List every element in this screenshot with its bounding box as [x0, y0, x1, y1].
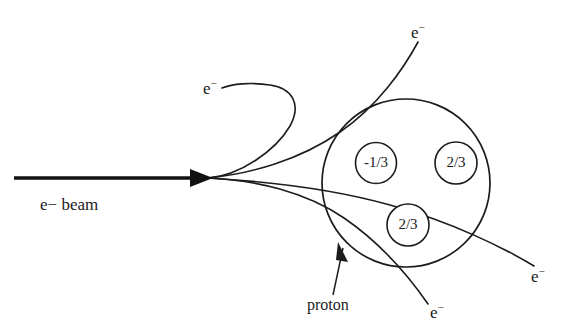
beam-charge-sign: −	[48, 195, 58, 214]
beam-word: beam	[57, 195, 98, 214]
electron-charge-sign: −	[539, 265, 545, 277]
label-electron-beam: e− beam	[40, 196, 98, 213]
beam-electron-symbol: e	[40, 195, 48, 214]
electron-charge-sign: −	[419, 21, 425, 33]
label-electron-forward-up: e−	[411, 22, 425, 41]
label-electron-backscatter: e−	[203, 78, 217, 97]
label-electron-forward-right: e−	[531, 266, 545, 285]
electron-symbol: e	[531, 267, 539, 286]
electron-track-forward-right	[208, 178, 534, 266]
label-electron-forward-down: e−	[430, 302, 444, 321]
beam-arrow-head	[190, 169, 213, 187]
quark-label-up-bottom: 2/3	[398, 216, 417, 232]
quark-label-up-right: 2/3	[446, 154, 465, 170]
electron-charge-sign: −	[211, 77, 217, 89]
quark-label-down: -1/3	[364, 154, 388, 170]
electron-symbol: e	[411, 23, 419, 42]
electron-symbol: e	[430, 303, 438, 322]
label-proton: proton	[307, 297, 349, 313]
electron-track-backscatter	[208, 84, 295, 178]
diagram-canvas: -1/3 2/3 2/3	[0, 0, 565, 332]
electron-charge-sign: −	[438, 301, 444, 313]
proton-pointer-head	[336, 242, 348, 262]
scattering-diagram: -1/3 2/3 2/3 e− e− e− e− e− beam proton	[0, 0, 565, 332]
electron-symbol: e	[203, 79, 211, 98]
